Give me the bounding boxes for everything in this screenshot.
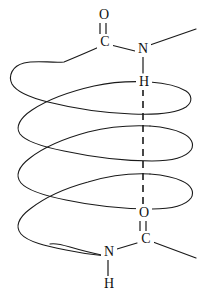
helix-coil-tail-bottom — [50, 244, 106, 256]
atom-label-nitrogen-top: N — [135, 41, 151, 57]
atom-label-oxygen-top: O — [96, 7, 112, 23]
atom-label-hydrogen-bottom: H — [101, 276, 117, 292]
helix-coil-group — [11, 47, 193, 256]
atom-label-hydrogen-top: H — [136, 74, 152, 90]
atom-label-carbon-bottom: C — [138, 231, 154, 247]
bond-c-n-top-line — [111, 45, 135, 51]
atom-label-nitrogen-bottom: N — [101, 244, 117, 260]
helix-coil-turn-3 — [18, 126, 193, 209]
bond-c-n-bottom-line — [117, 243, 137, 249]
bond-n-methyl-top-line — [150, 29, 196, 45]
helix-coil-turn-1 — [11, 47, 191, 114]
helix-figure: O C N H O C N H — [0, 0, 208, 294]
helix-coil-turn-4 — [18, 174, 150, 256]
atom-label-carbon-top: C — [97, 34, 113, 50]
bond-c-methyl-bottom-line — [153, 242, 196, 258]
atom-label-oxygen-bottom: O — [136, 205, 152, 221]
